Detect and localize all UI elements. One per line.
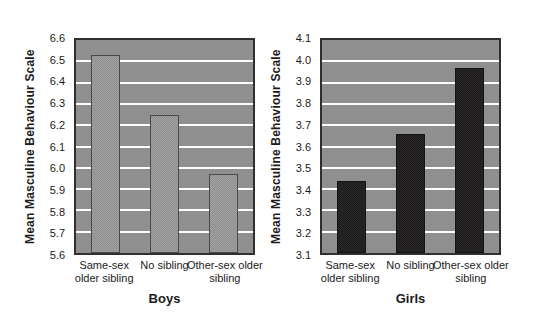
bar-other-sex-older-sibling — [455, 68, 484, 253]
bar-same-sex-older-sibling — [337, 181, 366, 253]
y-axis-title: Mean Masculine Behaviour Scale — [20, 38, 40, 255]
y-tick-label: 3.8 — [296, 98, 311, 109]
y-tick-label: 3.3 — [296, 206, 311, 217]
y-tick-label: 6.0 — [50, 163, 65, 174]
boys-chart: Mean Masculine Behaviour Scale 6.66.56.4… — [20, 38, 265, 304]
y-tick-label: 3.7 — [296, 119, 311, 130]
y-axis-ticks: 4.14.03.93.83.73.63.53.43.33.23.1 — [286, 38, 316, 255]
chart-title: Girls — [320, 291, 501, 306]
y-tick-label: 5.9 — [50, 184, 65, 195]
bar-other-sex-older-sibling — [209, 174, 238, 253]
category-label: Other-sex older sibling — [433, 259, 509, 285]
y-tick-label: 6.6 — [50, 33, 65, 44]
y-tick-label: 3.6 — [296, 141, 311, 152]
y-tick-label: 3.4 — [296, 184, 311, 195]
plot-area — [320, 38, 501, 255]
y-tick-label: 6.4 — [50, 76, 65, 87]
y-tick-label: 3.5 — [296, 163, 311, 174]
x-axis-labels: Same-sex older siblingNo siblingOther-se… — [320, 259, 501, 287]
y-tick-label: 3.2 — [296, 228, 311, 239]
y-tick-label: 5.6 — [50, 250, 65, 261]
figure-panel: Mean Masculine Behaviour Scale 6.66.56.4… — [10, 12, 528, 315]
bar-no-sibling — [396, 134, 425, 253]
y-tick-label: 4.1 — [296, 33, 311, 44]
bar-same-sex-older-sibling — [91, 55, 120, 253]
y-tick-label: 6.2 — [50, 119, 65, 130]
y-axis-ticks: 6.66.56.46.36.26.16.05.95.85.75.6 — [40, 38, 70, 255]
category-label: Other-sex older sibling — [187, 259, 263, 285]
bar-no-sibling — [150, 115, 179, 253]
y-tick-label: 6.3 — [50, 98, 65, 109]
chart-title: Boys — [74, 291, 255, 306]
plot-area — [74, 38, 255, 255]
y-axis-title: Mean Masculine Behaviour Scale — [266, 38, 286, 255]
y-tick-label: 4.0 — [296, 54, 311, 65]
gridline — [322, 60, 499, 62]
y-tick-label: 5.8 — [50, 206, 65, 217]
y-tick-label: 3.1 — [296, 250, 311, 261]
x-axis-labels: Same-sex older siblingNo siblingOther-se… — [74, 259, 255, 287]
y-tick-label: 3.9 — [296, 76, 311, 87]
y-tick-label: 5.7 — [50, 228, 65, 239]
girls-chart: Mean Masculine Behaviour Scale 4.14.03.9… — [266, 38, 511, 304]
y-tick-label: 6.1 — [50, 141, 65, 152]
y-tick-label: 6.5 — [50, 54, 65, 65]
